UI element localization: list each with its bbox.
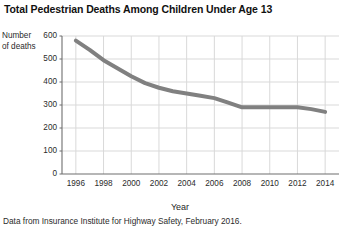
- y-tick-label: 500: [31, 55, 57, 63]
- y-tick-label: 300: [31, 101, 57, 109]
- x-axis-label: Year: [0, 202, 360, 212]
- plot-area: 0100200300400500600199619982000200220042…: [0, 0, 360, 231]
- x-tick-label: 2014: [308, 180, 342, 188]
- data-line-pedestrian-deaths: [76, 41, 325, 112]
- chart-figure: Total Pedestrian Deaths Among Children U…: [0, 0, 360, 231]
- y-tick-label: 400: [31, 78, 57, 86]
- y-tick-label: 100: [31, 147, 57, 155]
- y-tick-label: 0: [31, 170, 57, 178]
- source-note: Data from Insurance Institute for Highwa…: [3, 216, 242, 226]
- y-tick-label: 200: [31, 124, 57, 132]
- y-tick-label: 600: [31, 32, 57, 40]
